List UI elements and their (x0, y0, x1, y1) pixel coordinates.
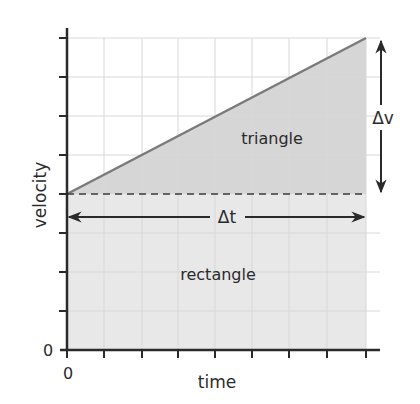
x-axis-label: time (198, 372, 236, 392)
velocity-time-diagram: Δt Δv triangle rectangle time velocity 0… (0, 0, 420, 404)
triangle-label: triangle (241, 129, 303, 148)
rectangle-label: rectangle (180, 265, 256, 284)
y-axis-label: velocity (30, 162, 50, 228)
y-origin-label: 0 (43, 341, 53, 360)
delta-t-label: Δt (218, 207, 237, 227)
delta-v-label: Δv (372, 108, 394, 128)
x-origin-label: 0 (63, 364, 73, 383)
